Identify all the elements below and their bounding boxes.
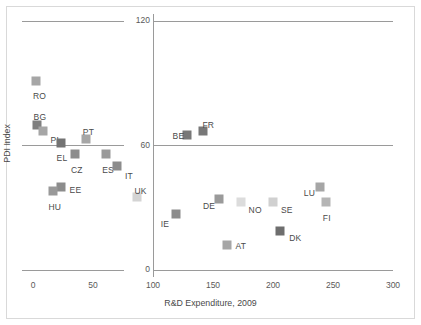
data-point-label-uk: UK (134, 187, 146, 196)
data-point-label-cz: CZ (71, 166, 83, 175)
data-point-label-be: BE (173, 132, 185, 141)
data-point-label-ee: EE (70, 186, 82, 195)
x-tick-label-250: 250 (318, 281, 348, 290)
data-point-it[interactable] (113, 162, 122, 171)
data-point-pl[interactable] (38, 126, 47, 135)
data-point-ie[interactable] (171, 209, 180, 218)
x-tick-label-0: 0 (18, 281, 48, 290)
reference-line-x-100 (153, 14, 154, 277)
x-tick-label-100: 100 (138, 281, 168, 290)
data-point-de[interactable] (215, 195, 224, 204)
y-tick-label-60: 60 (124, 141, 153, 150)
data-point-no[interactable] (236, 197, 245, 206)
data-point-label-fr: FR (202, 121, 214, 130)
data-point-label-de: DE (203, 202, 215, 211)
data-point-label-pt: PT (83, 128, 94, 137)
data-point-label-dk: DK (289, 234, 301, 243)
data-point-label-se: SE (281, 206, 293, 215)
data-point-es[interactable] (102, 149, 111, 158)
data-point-label-bg: BG (34, 113, 47, 122)
data-point-ro[interactable] (32, 77, 41, 86)
data-point-label-it: IT (125, 172, 133, 181)
data-point-fi[interactable] (321, 197, 330, 206)
data-point-label-ie: IE (161, 220, 169, 229)
data-point-label-at: AT (235, 242, 246, 251)
y-tick-label-120: 120 (124, 16, 153, 25)
data-point-label-el: EL (57, 154, 68, 163)
data-point-label-hu: HU (48, 203, 61, 212)
gridline-y-120 (22, 21, 393, 22)
data-point-lu[interactable] (315, 183, 324, 192)
x-axis-title: R&D Expenditure, 2009 (0, 299, 421, 308)
y-axis-title: PDI Index (3, 113, 12, 173)
x-tick-label-150: 150 (198, 281, 228, 290)
data-point-label-no: NO (249, 206, 262, 215)
data-point-label-ro: RO (33, 92, 46, 101)
data-point-label-fi: FI (323, 214, 331, 223)
x-tick-label-50: 50 (78, 281, 108, 290)
scatter-chart-figure: ROBGPLELCZPTESITEEHUUKBEFRDENOSEIEDKATLU… (0, 0, 421, 325)
data-point-label-lu: LU (304, 189, 315, 198)
x-tick-label-300: 300 (378, 281, 408, 290)
data-point-cz[interactable] (71, 149, 80, 158)
data-point-se[interactable] (269, 197, 278, 206)
data-point-at[interactable] (223, 241, 232, 250)
y-tick-label-0: 0 (124, 265, 153, 274)
data-point-el[interactable] (56, 139, 65, 148)
x-tick-label-200: 200 (258, 281, 288, 290)
data-point-hu[interactable] (49, 187, 58, 196)
data-point-dk[interactable] (276, 226, 285, 235)
x-axis-line (22, 270, 393, 271)
reference-line-y-60 (22, 145, 393, 146)
